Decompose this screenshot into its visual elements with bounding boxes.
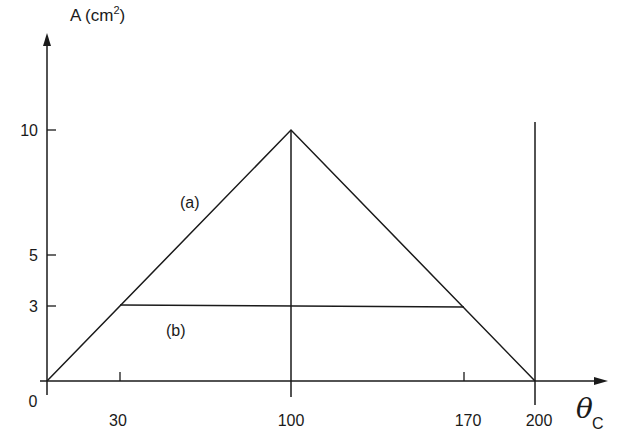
y-tick-label-5: 5 [29, 247, 38, 264]
y-axis-label: A (cm2) [70, 4, 125, 25]
series-a-annotation: (a) [180, 194, 200, 211]
x-axis-label-subscript: C [592, 415, 604, 432]
x-tick-label-30: 30 [109, 412, 127, 429]
origin-label: 0 [29, 393, 38, 410]
x-tick-label-100: 100 [278, 412, 305, 429]
y-tick-label-10: 10 [20, 122, 38, 139]
series-b-annotation: (b) [166, 322, 186, 339]
y-axis-arrow-icon [43, 33, 51, 46]
series-b-line [120, 305, 464, 307]
x-axis-arrow-icon [594, 377, 608, 385]
x-axis-label: θ [576, 392, 593, 425]
y-tick-label-3: 3 [29, 298, 38, 315]
x-tick-label-170: 170 [455, 412, 482, 429]
chart-canvas: A (cm2) 10 5 3 0 30 100 170 200 θ C (a) … [0, 0, 624, 448]
x-tick-label-200: 200 [526, 412, 553, 429]
